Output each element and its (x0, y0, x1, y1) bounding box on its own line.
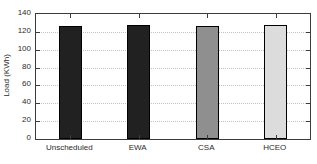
x-tick-mark (207, 14, 208, 18)
x-tick-mark (70, 14, 71, 18)
y-tick-label: 80 (2, 63, 31, 71)
y-tick-label: 40 (2, 98, 31, 106)
y-tick-mark (36, 32, 40, 33)
y-tick-label: 100 (2, 45, 31, 53)
y-tick-label: 60 (2, 80, 31, 88)
y-tick-mark (306, 121, 310, 122)
y-tick-label: 120 (2, 27, 31, 35)
x-tick-label: EWA (129, 143, 147, 152)
y-tick-label: 140 (2, 9, 31, 17)
y-tick-mark (36, 50, 40, 51)
bar (127, 25, 150, 139)
x-tick-mark (139, 135, 140, 139)
bar (264, 25, 287, 139)
x-tick-mark (139, 14, 140, 18)
y-tick-mark (306, 85, 310, 86)
y-tick-label: 20 (2, 116, 31, 124)
y-tick-mark (306, 103, 310, 104)
y-axis-title: Load (KWh) (2, 54, 11, 97)
bar (196, 26, 219, 139)
y-tick-mark (306, 50, 310, 51)
bar (59, 26, 82, 139)
y-tick-label: 0 (2, 134, 31, 142)
y-tick-mark (36, 121, 40, 122)
x-tick-mark (70, 135, 71, 139)
x-tick-mark (276, 14, 277, 18)
x-tick-mark (276, 135, 277, 139)
x-tick-label: Unscheduled (46, 143, 93, 152)
x-tick-label: CSA (198, 143, 214, 152)
y-tick-mark (36, 85, 40, 86)
y-tick-mark (306, 32, 310, 33)
y-tick-mark (36, 103, 40, 104)
x-tick-label: HCEO (263, 143, 286, 152)
y-tick-mark (36, 68, 40, 69)
x-tick-mark (207, 135, 208, 139)
bar-chart-figure: Load (KWh) 020406080100120140Unscheduled… (0, 0, 317, 164)
y-tick-mark (306, 68, 310, 69)
plot-area (35, 13, 311, 140)
